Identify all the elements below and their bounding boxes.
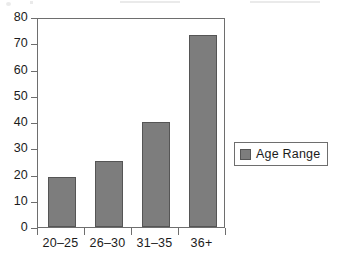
y-axis-tick-label: 20 xyxy=(14,168,28,182)
scan-artifact xyxy=(6,2,11,6)
x-axis-tick-mark xyxy=(37,228,38,235)
x-axis xyxy=(37,228,225,235)
scan-artifact xyxy=(30,1,33,4)
y-axis-tick-label: 40 xyxy=(14,115,28,129)
x-axis-label: 20–25 xyxy=(37,236,84,250)
plot-area xyxy=(37,18,225,228)
y-axis-tick-label: 30 xyxy=(14,141,28,155)
x-axis-label: 26–30 xyxy=(84,236,131,250)
y-axis-tick-label: 70 xyxy=(14,36,28,50)
bar-chart-figure: 01020304050607080 20–2526–3031–3536+ Age… xyxy=(0,0,339,266)
x-axis-label: 31–35 xyxy=(131,236,178,250)
bar xyxy=(95,161,123,227)
legend-label: Age Range xyxy=(256,147,320,161)
x-axis-tick-mark xyxy=(131,228,132,235)
bar xyxy=(189,35,217,227)
scan-artifact xyxy=(120,1,180,3)
scan-artifact xyxy=(250,1,320,3)
bar xyxy=(48,177,76,227)
y-axis-tick-label: 60 xyxy=(14,63,28,77)
x-axis-labels: 20–2526–3031–3536+ xyxy=(37,236,225,256)
y-axis-tick-label: 10 xyxy=(14,194,28,208)
bar xyxy=(142,122,170,227)
x-axis-tick-mark xyxy=(84,228,85,235)
y-axis-tick-label: 0 xyxy=(21,220,28,234)
y-axis: 01020304050607080 xyxy=(0,18,37,228)
x-axis-label: 36+ xyxy=(178,236,225,250)
y-axis-tick-label: 80 xyxy=(14,10,28,24)
x-axis-tick-mark xyxy=(225,228,226,235)
y-axis-tick-label: 50 xyxy=(14,89,28,103)
legend-swatch-icon xyxy=(240,149,251,160)
x-axis-tick-mark xyxy=(178,228,179,235)
legend: Age Range xyxy=(234,142,328,166)
